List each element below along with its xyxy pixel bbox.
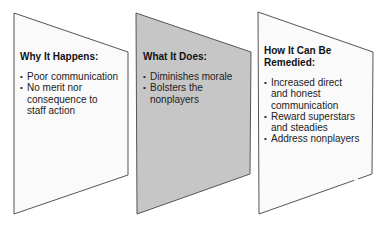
bullet-list: Increased direct and honest communicatio… <box>264 77 372 145</box>
panel-why-it-happens: Why It Happens: Poor communication No me… <box>20 51 128 116</box>
bullet-item: Increased direct and honest communicatio… <box>264 77 351 111</box>
bullet-list: Poor communication No merit nor conseque… <box>20 71 128 116</box>
panel-how-it-can-be-remedied: How It Can Be Remedied: Increased direct… <box>264 45 372 145</box>
panel-heading: How It Can Be Remedied: <box>264 45 344 69</box>
panel-what-it-does: What It Does: Diminishes morale Bolsters… <box>143 51 251 105</box>
bullet-item: Address nonplayers <box>264 133 372 144</box>
bullet-item: No merit nor consequence to staff action <box>20 82 107 116</box>
bullet-item: Reward superstars and steadies <box>264 111 371 134</box>
outline-gap <box>354 179 358 180</box>
bullet-list: Diminishes morale Bolsters the nonplayer… <box>143 71 251 105</box>
bullet-item: Bolsters the nonplayers <box>143 82 220 105</box>
bullet-item: Diminishes morale <box>143 71 251 82</box>
panel-heading: What It Does: <box>143 51 251 63</box>
bullet-item: Poor communication <box>20 71 128 82</box>
panel-shape-what <box>136 13 251 214</box>
panel-heading: Why It Happens: <box>20 51 128 63</box>
